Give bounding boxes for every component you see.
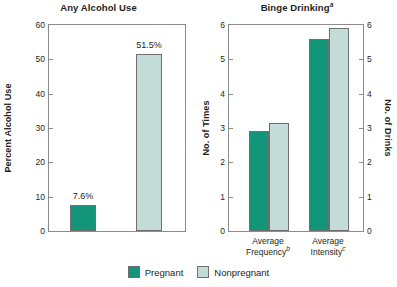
x-axis-category-label: AverageFrequencyb	[246, 236, 290, 258]
x-axis-category-label: AverageIntensityc	[311, 236, 346, 258]
y-axis-tick-label: 3	[220, 124, 225, 133]
x-axis-label-footnote-marker: c	[342, 245, 345, 252]
y-axis-tick-label: 40	[36, 89, 45, 98]
y-axis-tick-mark	[229, 197, 233, 198]
chart-title-text: Any Alcohol Use	[60, 2, 137, 13]
legend-label-nonpregnant: Nonpregnant	[214, 267, 269, 278]
chart-title-text: Binge Drinking	[261, 2, 330, 13]
y-axis-tick-label: 6	[220, 21, 225, 30]
y-axis-secondary-tick-mark	[359, 59, 363, 60]
bar-nonpregnant[interactable]	[136, 54, 162, 231]
y-axis-tick-label: 5	[220, 55, 225, 64]
bar-pregnant[interactable]	[309, 39, 329, 231]
y-axis-secondary-tick-mark	[359, 197, 363, 198]
legend-swatch-pregnant-icon	[128, 266, 140, 278]
figure-root: Any Alcohol Use 01020304050607.6%51.5% P…	[0, 0, 397, 287]
y-axis-tick-mark	[49, 59, 53, 60]
y-axis-tick-label: 20	[36, 158, 45, 167]
plot-area-binge-drinking: 01234560123456	[228, 24, 364, 232]
y-axis-label-no-of-drinks: No. of Drinks	[383, 99, 393, 156]
chart-title-footnote-marker: a	[330, 1, 334, 8]
x-axis-label-footnote-marker: b	[286, 245, 290, 252]
y-axis-secondary-tick-label: 0	[367, 227, 372, 236]
y-axis-secondary-tick-label: 2	[367, 158, 372, 167]
chart-title-binge-drinking: Binge Drinkinga	[197, 2, 397, 13]
y-axis-tick-label: 30	[36, 124, 45, 133]
y-axis-tick-label: 60	[36, 21, 45, 30]
y-axis-tick-label: 0	[220, 227, 225, 236]
bar-value-label: 51.5%	[136, 40, 162, 50]
legend-item-pregnant[interactable]: Pregnant	[128, 266, 184, 278]
y-axis-tick-label: 4	[220, 89, 225, 98]
chart-panel-binge-drinking: Binge Drinkinga 01234560123456	[197, 0, 397, 260]
y-axis-tick-label: 10	[36, 192, 45, 201]
chart-title-any-alcohol-use: Any Alcohol Use	[0, 2, 197, 13]
bar-nonpregnant[interactable]	[269, 123, 289, 231]
y-axis-tick-label: 1	[220, 192, 225, 201]
legend-swatch-nonpregnant-icon	[197, 266, 209, 278]
legend-item-nonpregnant[interactable]: Nonpregnant	[197, 266, 269, 278]
y-axis-secondary-tick-label: 1	[367, 192, 372, 201]
y-axis-tick-mark	[229, 59, 233, 60]
y-axis-tick-mark	[49, 128, 53, 129]
y-axis-secondary-tick-label: 3	[367, 124, 372, 133]
bar-value-label: 7.6%	[73, 191, 94, 201]
chart-legend: Pregnant Nonpregnant	[0, 266, 397, 278]
legend-label-pregnant: Pregnant	[145, 267, 184, 278]
y-axis-tick-label: 50	[36, 55, 45, 64]
y-axis-secondary-tick-label: 5	[367, 55, 372, 64]
bar-pregnant[interactable]	[70, 205, 96, 231]
y-axis-tick-mark	[49, 162, 53, 163]
y-axis-tick-mark	[229, 94, 233, 95]
y-axis-label-no-of-times: No. of Times	[201, 100, 211, 155]
y-axis-secondary-tick-mark	[359, 162, 363, 163]
chart-panel-any-alcohol-use: Any Alcohol Use 01020304050607.6%51.5%	[0, 0, 197, 260]
y-axis-tick-mark	[49, 94, 53, 95]
y-axis-tick-mark	[49, 197, 53, 198]
bar-pregnant[interactable]	[249, 131, 269, 231]
bar-nonpregnant[interactable]	[329, 28, 349, 231]
y-axis-label-percent-alcohol-use: Percent Alcohol Use	[3, 83, 13, 172]
y-axis-tick-label: 0	[40, 227, 45, 236]
y-axis-secondary-tick-mark	[359, 128, 363, 129]
y-axis-secondary-tick-label: 4	[367, 89, 372, 98]
y-axis-tick-label: 2	[220, 158, 225, 167]
y-axis-tick-mark	[229, 162, 233, 163]
plot-area-any-alcohol-use: 01020304050607.6%51.5%	[48, 24, 186, 232]
y-axis-tick-mark	[229, 128, 233, 129]
y-axis-secondary-tick-label: 6	[367, 21, 372, 30]
y-axis-secondary-tick-mark	[359, 94, 363, 95]
